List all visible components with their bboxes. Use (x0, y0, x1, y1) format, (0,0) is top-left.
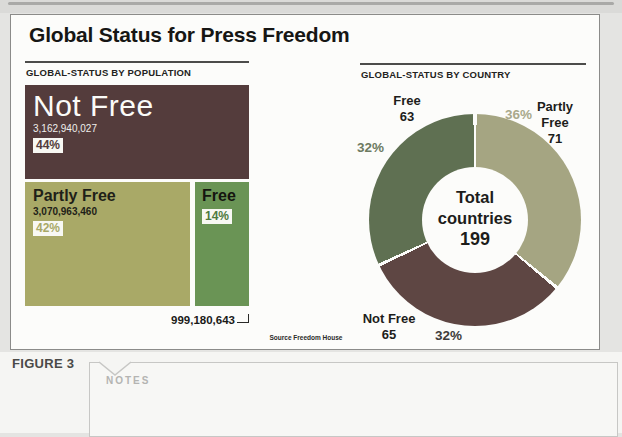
figure-panel: Global Status for Press Freedom GLOBAL-S… (10, 14, 600, 350)
figure-title: Global Status for Press Freedom (29, 23, 350, 47)
partly-segment-name-line1: Partly (527, 99, 583, 115)
country-section-rule (360, 63, 586, 65)
not-free-percent-badge: 44% (33, 138, 63, 153)
page-top-edge-line (8, 2, 614, 5)
treemap-free-population: 999,180,643 (71, 314, 249, 326)
callout-connector-line (237, 314, 249, 323)
treemap-free-block: Free 14% (195, 182, 249, 306)
donut-label-free: Free 63 (377, 93, 437, 125)
partly-segment-count: 71 (527, 131, 583, 147)
donut-percent-free: 32% (357, 140, 384, 155)
free-population-value: 999,180,643 (171, 314, 235, 326)
page-top-edge (0, 0, 622, 13)
notes-box: NOTES (89, 362, 618, 437)
donut-center-label: Total countries 199 (405, 187, 545, 250)
center-line1: Total (405, 187, 545, 208)
not-free-population: 3,162,940,027 (33, 123, 241, 134)
treemap-not-free-block: Not Free 3,162,940,027 44% (25, 85, 249, 179)
treemap-partly-free-block: Partly Free 3,070,963,460 42% (25, 182, 190, 306)
country-section-header: GLOBAL-STATUS BY COUNTRY (361, 69, 511, 80)
partly-free-population: 3,070,963,460 (33, 206, 182, 217)
partly-segment-name-line2: Free (527, 115, 583, 131)
donut-percent-not-free: 32% (435, 328, 462, 343)
partly-free-percent-badge: 42% (33, 221, 63, 236)
population-section-header: GLOBAL-STATUS BY POPULATION (26, 67, 191, 78)
partly-free-label: Partly Free (33, 187, 182, 205)
notes-label: NOTES (106, 375, 150, 386)
free-label: Free (202, 187, 242, 205)
not-free-label: Not Free (33, 90, 241, 122)
not-free-segment-name: Not Free (351, 311, 427, 327)
free-segment-count: 63 (377, 109, 437, 125)
donut-label-partly-free: Partly Free 71 (527, 99, 583, 147)
free-percent-badge: 14% (202, 209, 232, 224)
figure-label: FIGURE 3 (12, 356, 74, 371)
total-countries-value: 199 (405, 229, 545, 250)
free-segment-name: Free (377, 93, 437, 109)
center-line2: countries (405, 208, 545, 229)
population-section-rule (25, 61, 249, 63)
source-note: Source Freedom House (231, 334, 381, 341)
